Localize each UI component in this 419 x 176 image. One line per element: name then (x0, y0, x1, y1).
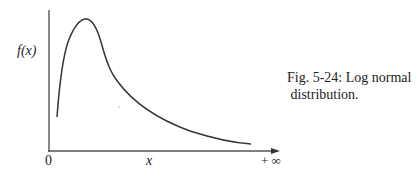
origin-label: 0 (45, 154, 52, 168)
x-axis-label: x (146, 154, 152, 168)
pdf-curve (57, 19, 251, 144)
x-max-label: + ∞ (261, 154, 281, 167)
y-axis-label: f(x) (17, 44, 36, 58)
figure-caption: Fig. 5-24: Log normal distribution. (287, 69, 411, 103)
caption-line-2: distribution. (287, 87, 359, 102)
speck (118, 106, 119, 107)
caption-line-1: Fig. 5-24: Log normal (287, 70, 411, 85)
